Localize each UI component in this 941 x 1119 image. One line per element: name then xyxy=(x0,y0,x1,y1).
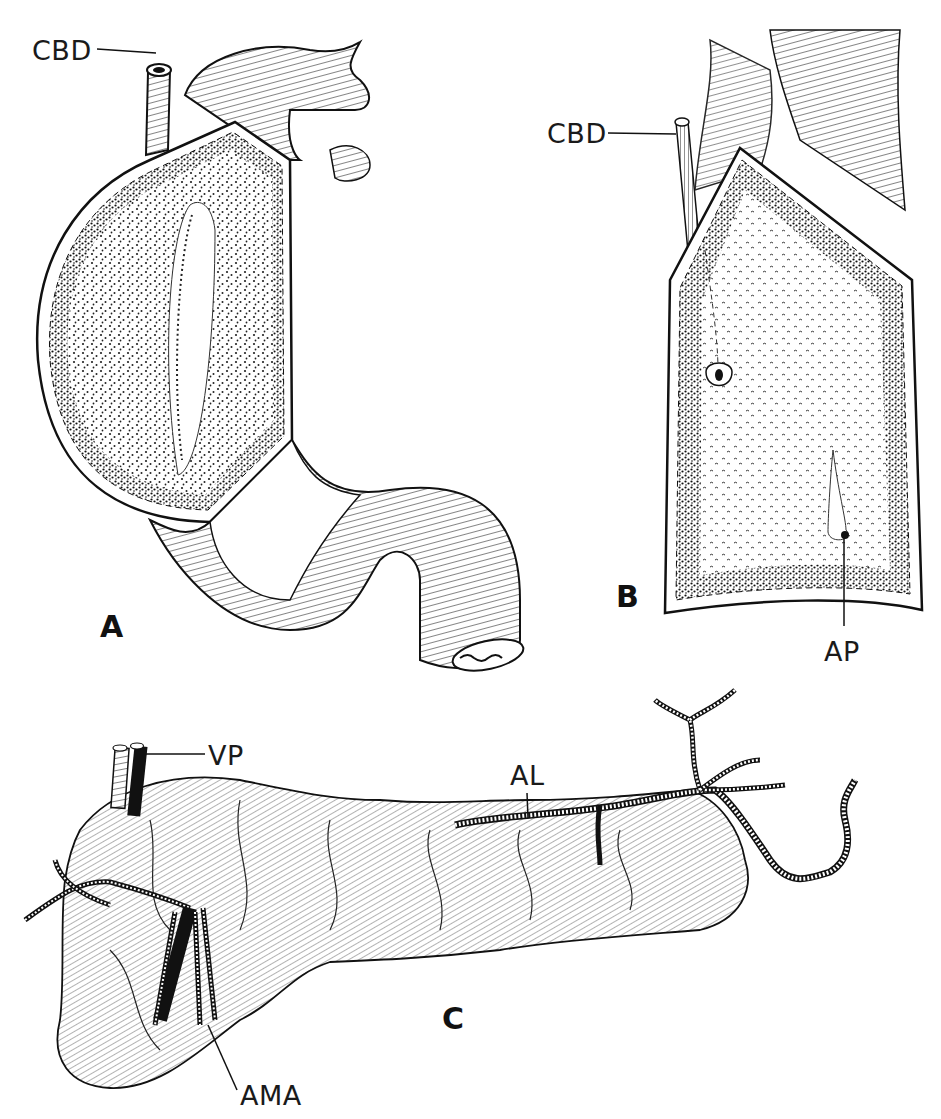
panel-b-duodenum-opened xyxy=(608,30,922,626)
panel-c-pancreas xyxy=(25,690,855,1090)
label-ap: AP xyxy=(824,638,860,665)
label-cbd-panel-b: CBD xyxy=(547,120,607,147)
label-al: AL xyxy=(510,762,545,789)
label-ama: AMA xyxy=(240,1082,302,1109)
panel-letter-c: C xyxy=(442,1004,464,1034)
label-vp: VP xyxy=(208,742,244,769)
panel-a-duodenum xyxy=(37,42,526,676)
panel-letter-b: B xyxy=(616,582,639,612)
label-cbd-panel-a: CBD xyxy=(32,37,92,64)
anatomical-illustration xyxy=(0,0,941,1119)
panel-letter-a: A xyxy=(100,612,123,642)
